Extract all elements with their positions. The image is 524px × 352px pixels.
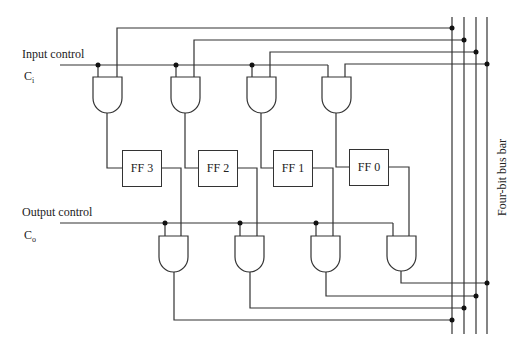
flip-flop-3: FF 3 [122,150,162,187]
output-and-gate-1 [311,236,340,272]
output-control-symbol: Co [24,228,36,244]
input-control-symbol: Ci [24,69,34,85]
input-and-gate-2 [171,77,200,113]
input-and-gate-3 [93,77,122,113]
register-bus-diagram: Input control Ci Output control Co FF 3 … [0,0,524,352]
output-and-gate-0 [387,236,416,271]
bus-bar-label: Four-bit bus bar [495,128,510,228]
output-and-gate-3 [159,236,188,272]
input-and-gate-0 [322,77,351,113]
output-control-label: Output control [22,205,92,220]
input-and-gate-1 [247,77,276,113]
co-symbol: C [24,228,32,242]
flip-flop-1: FF 1 [273,150,313,187]
ci-subscript: i [32,76,34,85]
co-subscript: o [32,235,36,244]
flip-flop-0: FF 0 [349,149,389,186]
input-control-label: Input control [22,47,84,62]
flip-flop-2: FF 2 [198,150,238,187]
output-and-gate-2 [235,236,264,272]
ci-symbol: C [24,69,32,83]
